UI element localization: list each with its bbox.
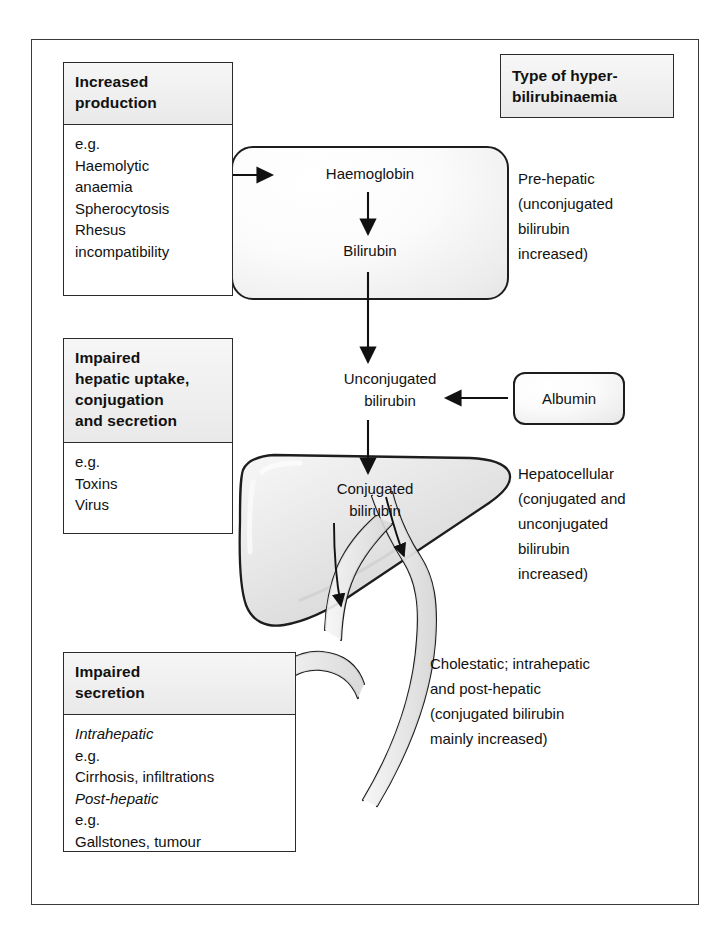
panel-impaired-hepatic-uptake-header: Impaired hepatic uptake, conjugation and…	[64, 339, 232, 443]
panel-impaired-secretion-line: e.g.	[75, 809, 285, 831]
annotation-pre-hepatic: Pre-hepatic (unconjugated bilirubin incr…	[518, 166, 698, 266]
panel-increased-production-header: Increased production	[64, 63, 232, 125]
panel-impaired-secretion-line: Gallstones, tumour	[75, 831, 285, 853]
type-of-hyperbilirubinaemia-header: Type of hyper- bilirubinaemia	[500, 54, 674, 118]
annotation-cholestatic: Cholestatic; intrahepatic and post-hepat…	[430, 651, 700, 751]
panel-impaired-secretion-line: Intrahepatic	[75, 723, 285, 745]
panel-impaired-secretion-line: Post-hepatic	[75, 788, 285, 810]
panel-impaired-hepatic-uptake: Impaired hepatic uptake, conjugation and…	[63, 338, 233, 534]
annotation-hepatocellular: Hepatocellular (conjugated and unconjuga…	[518, 461, 698, 586]
label-bilirubin: Bilirubin	[290, 240, 450, 262]
panel-impaired-hepatic-uptake-body: e.g. Toxins Virus	[64, 443, 232, 526]
label-unconjugated-bilirubin: Unconjugated bilirubin	[300, 368, 480, 412]
panel-impaired-secretion-body: Intrahepatice.g.Cirrhosis, infiltrations…	[64, 715, 295, 862]
panel-increased-production: Increased production e.g. Haemolytic ana…	[63, 62, 233, 296]
albumin-box: Albumin	[513, 372, 625, 425]
label-conjugated-bilirubin: Conjugated bilirubin	[290, 478, 460, 522]
panel-impaired-secretion-line: Cirrhosis, infiltrations	[75, 766, 285, 788]
panel-impaired-secretion-header: Impaired secretion	[64, 653, 295, 715]
label-haemoglobin: Haemoglobin	[280, 163, 460, 185]
panel-increased-production-body: e.g. Haemolytic anaemia Spherocytosis Rh…	[64, 125, 232, 272]
panel-impaired-secretion-line: e.g.	[75, 745, 285, 767]
panel-impaired-secretion: Impaired secretion Intrahepatice.g.Cirrh…	[63, 652, 296, 852]
